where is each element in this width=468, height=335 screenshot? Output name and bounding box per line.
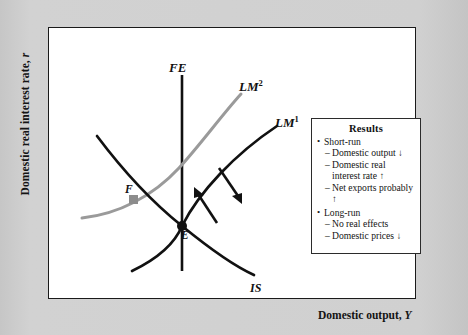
x-axis-label-variable: Y bbox=[405, 309, 412, 321]
bullet-glyph: • bbox=[317, 136, 324, 147]
lm1-curve bbox=[132, 126, 277, 271]
results-heading-short-run: • Short-run bbox=[317, 136, 415, 147]
lm2-label-superscript: 2 bbox=[259, 78, 263, 88]
plot-area: FE LM2 LM1 IS E F Results • Short-run – … bbox=[48, 27, 416, 299]
figure-container: Domestic real interest rate, r Domestic … bbox=[0, 0, 468, 335]
results-box: Results • Short-run – Domestic output ↓ … bbox=[311, 118, 421, 254]
dash-glyph: – bbox=[325, 230, 332, 242]
dash-glyph: – bbox=[325, 159, 332, 171]
fe-curve-label: FE bbox=[169, 61, 186, 74]
y-axis-label-variable: r bbox=[19, 53, 31, 58]
is-curve-label: IS bbox=[250, 282, 261, 294]
is-label-text: IS bbox=[250, 281, 261, 295]
dash-glyph: – bbox=[325, 218, 332, 230]
results-item: – Domestic prices ↓ bbox=[317, 230, 415, 242]
point-f-label: F bbox=[125, 184, 133, 196]
lm2-curve bbox=[82, 94, 241, 218]
lm2-curve-label: LM2 bbox=[239, 79, 263, 93]
results-item-text: Domestic real interest rate ↑ bbox=[332, 159, 415, 182]
results-item: – No real effects bbox=[317, 218, 415, 230]
is-curve bbox=[97, 136, 254, 275]
point-f-marker bbox=[129, 195, 138, 204]
fe-label-text: FE bbox=[169, 60, 186, 75]
lm1-curve-label: LM1 bbox=[275, 115, 299, 129]
results-item-text: Net exports probably ↑ bbox=[332, 182, 415, 205]
results-item: – Domestic output ↓ bbox=[317, 147, 415, 159]
results-heading-text: Long-run bbox=[324, 207, 360, 218]
results-heading-text: Short-run bbox=[324, 136, 361, 147]
lm1-label-text: LM bbox=[275, 115, 295, 130]
x-axis-label: Domestic output, Y bbox=[318, 309, 412, 321]
lm1-label-superscript: 1 bbox=[295, 114, 299, 124]
results-item-text: Domestic output ↓ bbox=[332, 147, 415, 159]
y-axis-label-text: Domestic real interest rate, bbox=[19, 57, 31, 195]
results-title: Results bbox=[317, 123, 415, 134]
results-group-long-run: • Long-run – No real effects – Domestic … bbox=[317, 207, 415, 241]
results-item: – Net exports probably ↑ bbox=[317, 182, 415, 205]
x-axis-label-text: Domestic output, bbox=[318, 309, 405, 321]
bullet-glyph: • bbox=[317, 207, 324, 218]
results-item-text: No real effects bbox=[332, 218, 415, 230]
results-item-text: Domestic prices ↓ bbox=[332, 230, 415, 242]
dash-glyph: – bbox=[325, 147, 332, 159]
y-axis-label: Domestic real interest rate, r bbox=[19, 29, 31, 219]
point-e-label: E bbox=[181, 230, 189, 242]
results-item: – Domestic real interest rate ↑ bbox=[317, 159, 415, 182]
results-heading-long-run: • Long-run bbox=[317, 207, 415, 218]
lm2-label-text: LM bbox=[239, 79, 259, 94]
results-group-short-run: • Short-run – Domestic output ↓ – Domest… bbox=[317, 136, 415, 205]
dash-glyph: – bbox=[325, 182, 332, 194]
arrow-down-right bbox=[219, 168, 242, 204]
